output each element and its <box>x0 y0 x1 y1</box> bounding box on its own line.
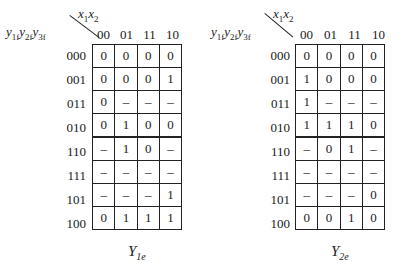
row-header: 100 <box>50 216 86 232</box>
cell: 1 <box>115 207 137 230</box>
cell: 1 <box>159 68 181 91</box>
cell: – <box>340 184 362 207</box>
grid-row: 1000 <box>296 68 385 91</box>
cell: 0 <box>93 207 115 230</box>
cell: 1 <box>296 114 318 138</box>
row-header: 001 <box>50 72 86 88</box>
cell: 0 <box>296 207 318 230</box>
row-header: 000 <box>50 48 86 64</box>
cell: – <box>362 91 384 114</box>
grid-row: –––1 <box>93 184 182 207</box>
cell: – <box>137 161 159 184</box>
cell: 0 <box>362 114 384 138</box>
column-header: 01 <box>115 27 138 43</box>
cell: 0 <box>318 137 340 161</box>
cell: 0 <box>159 114 181 138</box>
cell: – <box>115 184 137 207</box>
row-header: 110 <box>254 144 290 160</box>
cell: 0 <box>362 45 384 68</box>
cell: 0 <box>296 45 318 68</box>
cell: – <box>340 161 362 184</box>
cell: 0 <box>318 207 340 230</box>
column-header: 10 <box>161 27 184 43</box>
column-header: 11 <box>343 27 366 43</box>
column-header: 11 <box>138 27 161 43</box>
cell: 0 <box>318 68 340 91</box>
cell: 1 <box>115 114 137 138</box>
grid-row: 1110 <box>296 114 385 138</box>
cell: 1 <box>296 91 318 114</box>
cell: – <box>318 161 340 184</box>
cell: 0 <box>137 137 159 161</box>
cell: – <box>93 184 115 207</box>
cell: 0 <box>93 45 115 68</box>
cell: – <box>362 137 384 161</box>
grid-row: 0000 <box>93 45 182 68</box>
grid-row: 0000 <box>296 45 385 68</box>
row-header: 111 <box>254 168 290 184</box>
grid-row: 0––– <box>93 91 182 114</box>
row-header: 011 <box>50 96 86 112</box>
cell: 1 <box>159 184 181 207</box>
cell: – <box>296 184 318 207</box>
cell: 0 <box>93 91 115 114</box>
cell: – <box>137 91 159 114</box>
column-header: 00 <box>295 27 318 43</box>
cell: 0 <box>93 114 115 138</box>
cell: – <box>115 91 137 114</box>
cell: 0 <box>340 45 362 68</box>
cell: 0 <box>362 207 384 230</box>
column-variable-label: x1x2 <box>78 6 99 24</box>
cell: – <box>318 91 340 114</box>
row-header: 010 <box>50 120 86 136</box>
cell: 0 <box>115 68 137 91</box>
cell: 1 <box>296 68 318 91</box>
row-header: 100 <box>254 216 290 232</box>
grid-row: 0111 <box>93 207 182 230</box>
cell: 0 <box>362 184 384 207</box>
cell: – <box>93 161 115 184</box>
grid-row: –––0 <box>296 184 385 207</box>
cell: – <box>159 91 181 114</box>
column-variable-label: x1x2 <box>273 6 294 24</box>
cell: 0 <box>137 45 159 68</box>
cell: – <box>296 137 318 161</box>
cell: – <box>159 161 181 184</box>
cell: – <box>137 184 159 207</box>
cell: – <box>340 91 362 114</box>
grid-row: –––– <box>296 161 385 184</box>
cell: – <box>362 161 384 184</box>
karnaugh-map-y1e: x1x2 y1fy2fy3f 00 01 11 10 000 001 011 0… <box>0 0 200 271</box>
cell: 0 <box>137 68 159 91</box>
row-header: 001 <box>254 72 290 88</box>
row-header: 011 <box>254 96 290 112</box>
cell: 1 <box>318 114 340 138</box>
cell: 1 <box>137 207 159 230</box>
cell: – <box>318 184 340 207</box>
cell: 1 <box>115 137 137 161</box>
grid-row: 0010 <box>296 207 385 230</box>
row-header: 101 <box>254 192 290 208</box>
grid-row: 0100 <box>93 114 182 138</box>
row-header: 000 <box>254 48 290 64</box>
cell: – <box>115 161 137 184</box>
row-variable-label: y1fy2fy3f <box>211 24 251 42</box>
cell: 0 <box>340 68 362 91</box>
grid-row: 1––– <box>296 91 385 114</box>
row-header: 101 <box>50 192 86 208</box>
cell: 0 <box>137 114 159 138</box>
row-header: 111 <box>50 168 86 184</box>
cell: – <box>159 137 181 161</box>
cell: 1 <box>340 114 362 138</box>
cell: – <box>296 161 318 184</box>
cell: – <box>93 137 115 161</box>
grid-row: 0001 <box>93 68 182 91</box>
cell: 1 <box>340 207 362 230</box>
cell: 0 <box>362 68 384 91</box>
cell: 1 <box>159 207 181 230</box>
column-header: 01 <box>319 27 342 43</box>
grid-row: –––– <box>93 161 182 184</box>
cell: 0 <box>115 45 137 68</box>
grid-row: –10– <box>93 137 182 161</box>
cell: 0 <box>159 45 181 68</box>
